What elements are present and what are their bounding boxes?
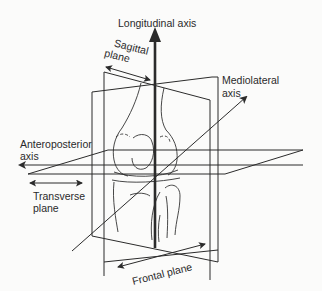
label-anteroposterior-axis-2: axis [20, 150, 39, 162]
label-frontal-plane: Frontal plane [131, 260, 194, 287]
label-transverse-plane-1: Transverse [33, 190, 85, 202]
knee-planes-diagram: Longitudinal axis Sagittal plane Mediola… [0, 0, 322, 291]
knee-bones-illustration [112, 83, 180, 242]
label-longitudinal-axis: Longitudinal axis [118, 17, 196, 29]
label-anteroposterior-axis-1: Anteroposterior [20, 138, 92, 150]
transverse-plane [28, 150, 303, 174]
diagram-svg: Longitudinal axis Sagittal plane Mediola… [0, 0, 322, 291]
longitudinal-arrowhead-icon [149, 27, 161, 42]
frontal-plane-double-arrow [118, 244, 205, 267]
label-mediolateral-axis-2: axis [222, 87, 241, 99]
label-mediolateral-axis-1: Mediolateral [222, 74, 279, 86]
sagittal-plane [104, 72, 218, 280]
label-transverse-plane-2: plane [33, 202, 59, 214]
